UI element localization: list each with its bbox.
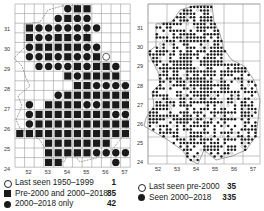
record-dot [162,104,165,107]
record-dot [179,19,182,22]
record-open-circle [200,149,202,151]
record-dot [200,19,203,22]
record-dot [200,108,203,111]
record-dot [203,132,206,135]
record-dot [203,125,206,128]
record-open-circle [169,98,171,100]
x-axis-label: 57 [250,166,256,172]
record-dot [173,40,176,43]
record-dot [179,121,182,124]
record-open-circle [186,16,188,18]
record-dot [176,64,179,67]
record-dot [203,30,206,33]
record-square [35,120,42,127]
record-dot [196,6,199,9]
record-dot [190,128,193,131]
record-dot [193,111,196,114]
record-dot [162,36,165,39]
record-dot [210,142,213,145]
record-dot [210,74,213,77]
record-dot [193,47,196,50]
record-dot [230,94,233,97]
record-square [26,24,33,31]
record-open-circle [193,26,195,28]
record-dot [176,47,179,50]
record-dot [193,145,196,148]
record-square [83,5,90,12]
record-dot [241,74,244,77]
record-dot [213,43,216,46]
record-dot [179,64,182,67]
record-dot [196,30,199,33]
record-dot [220,87,223,90]
record-dot [35,53,42,60]
record-dot [203,19,206,22]
record-dot [176,23,179,26]
record-dot [190,60,193,63]
y-axis-label: 24 [4,166,10,172]
record-open-circle [251,111,253,113]
record-dot [179,36,182,39]
record-square [83,34,90,41]
record-dot [203,81,206,84]
record-dot [179,67,182,70]
record-square [93,72,100,79]
record-dot [190,84,193,87]
record-open-circle [231,115,233,117]
record-dot [159,132,162,135]
record-dot [200,142,203,145]
record-dot [224,138,227,141]
record-square [83,149,90,156]
record-dot [217,121,220,124]
record-dot [159,81,162,84]
record-dot [186,145,189,148]
record-open-circle [234,94,236,96]
record-dot [200,43,203,46]
record-dot [193,142,196,145]
record-dot [203,36,206,39]
record-open-circle [163,40,165,42]
record-dot [35,34,42,41]
record-dot [186,121,189,124]
record-dot [207,26,210,29]
record-dot [83,24,90,31]
record-open-circle [227,105,229,107]
record-dot [251,104,254,107]
record-dot [227,132,230,135]
record-dot [169,40,172,43]
record-dot [159,94,162,97]
record-dot [156,91,159,94]
x-axis-label: 57 [122,169,128,175]
legend-item-pre-2000-and-2000-2018: Pre-2000 and 2000–2018 85 [4,189,130,200]
record-dot [244,101,247,104]
record-dot [186,74,189,77]
record-dot [176,77,179,80]
record-square [83,130,90,137]
record-dot [247,108,250,111]
record-square [35,44,42,51]
record-dot [196,132,199,135]
record-dot [173,101,176,104]
record-dot [190,77,193,80]
record-dot [203,138,206,141]
record-dot [254,108,257,111]
record-dot [213,33,216,36]
record-square [103,130,110,137]
record-dot [190,64,193,67]
record-dot [196,70,199,73]
record-dot [200,111,203,114]
record-dot [186,40,189,43]
record-square [122,120,129,127]
record-dot [196,84,199,87]
record-dot [173,30,176,33]
record-dot [159,84,162,87]
record-dot [241,87,244,90]
record-dot [193,33,196,36]
record-dot [156,94,159,97]
record-dot [190,98,193,101]
record-dot [176,91,179,94]
record-dot [190,50,193,53]
record-dot [162,74,165,77]
record-dot [186,36,189,39]
record-dot [183,101,186,104]
